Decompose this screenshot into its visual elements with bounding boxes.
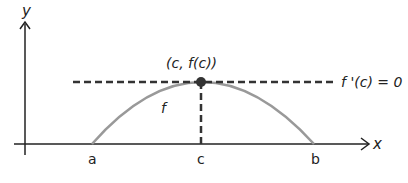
x-axis-label: x [372,135,382,153]
curve-label: f [161,100,168,116]
diagram: y x (c, f(c)) f '(c) = 0 f a c b [0,0,408,183]
point-b-label: b [311,151,320,167]
point-a-label: a [88,151,97,167]
point-c-label: c [197,151,205,167]
y-axis-label: y [21,2,32,20]
tangent-label: f '(c) = 0 [341,74,402,90]
max-point [196,77,206,87]
curve-f [92,82,314,144]
max-point-label: (c, f(c)) [166,55,217,71]
